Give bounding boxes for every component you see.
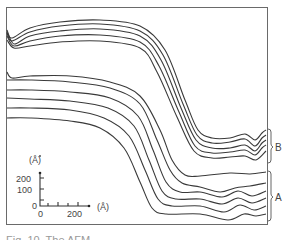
profile-curve-b2 [7,24,266,146]
profile-curve-a1 [7,72,266,177]
group-label-a: A [275,192,282,203]
inset-x-tick-0: 0 [38,209,43,219]
curve-group-b [7,20,266,160]
inset-y-tick-0: 0 [32,201,37,211]
profile-curve-b3 [7,29,266,151]
inset-scale: (Å) 200 100 0 0 200 (Å) [16,155,109,219]
profile-curve-a3 [7,90,266,197]
inset-y-unit: (Å) [29,155,41,165]
profile-curve-a6 [7,118,266,220]
afm-profile-figure: B A (Å) 200 100 0 0 200 (Å) [0,0,288,240]
figure-caption-partial: Fig. 10. The AFM ... [6,233,102,240]
group-label-b: B [275,142,282,153]
inset-y-tick-200: 200 [16,174,31,184]
profile-curve-a5 [7,108,266,212]
profile-curve-b4 [7,35,266,155]
inset-y-tick-100: 100 [17,185,32,195]
curve-group-a [7,72,266,220]
inset-x-tick-200: 200 [67,209,82,219]
plot-frame [7,8,268,225]
inset-x-unit: (Å) [97,202,109,212]
brace-a-icon [268,171,273,221]
inset-y-axis [40,173,88,206]
brace-b-icon [268,129,273,163]
